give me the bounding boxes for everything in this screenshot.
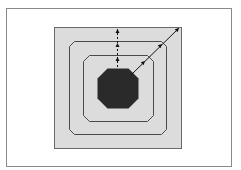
propagation-diagram [0, 0, 241, 170]
core-octagon [98, 69, 139, 109]
diagram-canvas [0, 0, 241, 170]
